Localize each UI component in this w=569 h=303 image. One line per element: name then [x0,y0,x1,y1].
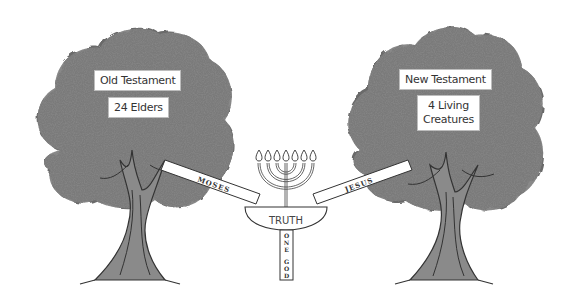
svg-text:E: E [284,246,289,253]
living-creatures-line2: Creatures [423,113,474,127]
svg-text:O: O [284,265,289,272]
svg-text:N: N [284,239,290,246]
diagram-graphic: MOSES JESUS TRUTH O N E G O D [0,0,569,303]
4-living-creatures-label: 4 Living Creatures [417,95,480,131]
24-elders-label: 24 Elders [108,97,169,118]
right-olive-tree [348,27,543,284]
diagram-canvas: MOSES JESUS TRUTH O N E G O D Old Testam… [0,0,569,303]
old-testament-label: Old Testament [94,70,181,91]
svg-text:D: D [284,272,289,279]
menorah [258,163,314,208]
one-god-pillar: O N E G O D [280,230,293,280]
truth-bowl: TRUTH [245,207,327,230]
truth-label: TRUTH [268,215,303,226]
new-testament-label: New Testament [399,69,492,90]
menorah-flames [256,150,316,161]
svg-text:O: O [284,232,289,239]
svg-text:G: G [284,258,289,265]
living-creatures-line1: 4 Living [423,99,474,113]
left-olive-tree [38,29,234,284]
